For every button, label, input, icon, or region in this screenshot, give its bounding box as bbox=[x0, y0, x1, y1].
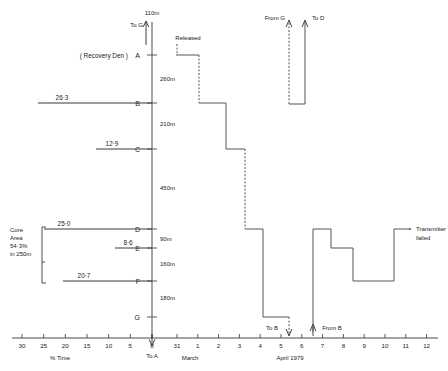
distance-label-top: 110m bbox=[145, 10, 160, 16]
percent-ticklabel-5: 5 bbox=[129, 342, 133, 349]
to-d-label: To D bbox=[312, 15, 325, 21]
distance-label-C-D: 450m bbox=[160, 185, 175, 191]
chart-svg: A B C D E F G 260m 210m 450m 90m 160m 18… bbox=[0, 0, 448, 371]
percent-time-axis-label: % Time bbox=[50, 355, 71, 361]
core-area-line2: Area bbox=[10, 235, 23, 241]
percent-ticklabel-30: 30 bbox=[19, 342, 26, 349]
percent-ticklabel-10: 10 bbox=[105, 342, 112, 349]
march-axis-label: March bbox=[182, 355, 199, 361]
date-ticklabel-12: 12 bbox=[423, 342, 430, 349]
percent-value-B: 26·3 bbox=[56, 94, 69, 101]
to-b-label: To B bbox=[266, 325, 278, 331]
released-label: Released bbox=[175, 35, 200, 41]
transmitter-failed-line1: Transmitter bbox=[416, 226, 446, 232]
to-g-arrow-icon bbox=[143, 21, 149, 45]
distance-label-B-C: 210m bbox=[160, 121, 175, 127]
distance-label-D-E: 90m bbox=[160, 236, 172, 242]
percent-ticklabel-15: 15 bbox=[84, 342, 91, 349]
from-g-arrow-icon bbox=[286, 20, 292, 104]
core-area-bracket bbox=[42, 227, 46, 283]
percent-value-C: 12·9 bbox=[106, 140, 119, 147]
date-ticklabel-31: 31 bbox=[174, 342, 181, 349]
core-area-line3: 54·3% bbox=[10, 243, 28, 249]
percent-ticklabel-20: 20 bbox=[62, 342, 69, 349]
distance-label-A-B: 260m bbox=[160, 76, 175, 82]
date-ticklabel-7: 7 bbox=[321, 342, 325, 349]
recovery-den-label: ( Recovery Den ) bbox=[80, 52, 128, 60]
den-label-A: A bbox=[135, 52, 140, 59]
distance-label-E-F: 160m bbox=[160, 261, 175, 267]
percent-value-D: 25·0 bbox=[58, 220, 71, 227]
date-ticklabel-11: 11 bbox=[403, 342, 410, 349]
date-ticklabel-5: 5 bbox=[279, 342, 283, 349]
date-ticklabel-10: 10 bbox=[382, 342, 389, 349]
from-g-label: From G bbox=[265, 15, 286, 21]
core-area-line4: in 250m bbox=[10, 251, 31, 257]
date-ticklabel-1: 1 bbox=[196, 342, 200, 349]
transmitter-failed-endpoint bbox=[409, 228, 411, 230]
to-a-label: To A bbox=[146, 353, 158, 359]
from-b-label: From B bbox=[322, 325, 342, 331]
april-axis-label: April 1979 bbox=[276, 355, 304, 361]
date-ticklabel-8: 8 bbox=[342, 342, 346, 349]
to-d-arrow-icon bbox=[302, 20, 308, 104]
den-occupancy-chart: A B C D E F G 260m 210m 450m 90m 160m 18… bbox=[0, 0, 448, 371]
percent-ticklabel-25: 25 bbox=[40, 342, 47, 349]
date-ticklabel-3: 3 bbox=[238, 342, 242, 349]
date-ticklabel-9: 9 bbox=[362, 342, 366, 349]
to-g-label: To G bbox=[130, 22, 143, 28]
date-ticklabel-4: 4 bbox=[258, 342, 262, 349]
transmitter-failed-line2: failed bbox=[416, 235, 430, 241]
date-ticklabel-2: 2 bbox=[217, 342, 221, 349]
distance-label-F-G: 180m bbox=[160, 295, 175, 301]
percent-value-E: 8·6 bbox=[123, 239, 133, 246]
percent-value-F: 20·7 bbox=[78, 272, 91, 279]
date-ticklabel-6: 6 bbox=[300, 342, 304, 349]
core-area-line1: Core bbox=[10, 227, 24, 233]
den-label-G: G bbox=[135, 314, 140, 321]
